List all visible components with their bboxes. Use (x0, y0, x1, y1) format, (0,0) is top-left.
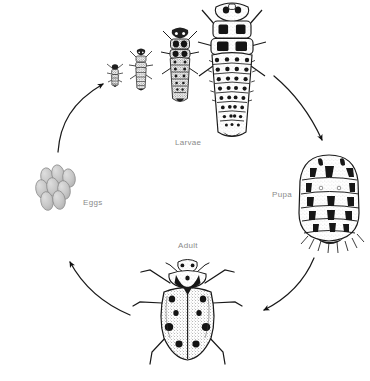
larva-instar-3 (161, 28, 199, 102)
stage-label-larvae: Larvae (175, 138, 201, 147)
stage-label-adult: Adult (178, 241, 198, 250)
arrow-pupa-to-adult (264, 258, 314, 310)
arrow-adult-to-eggs (70, 262, 130, 315)
adult-ladybug (133, 260, 242, 365)
life-cycle-illustration (0, 0, 370, 381)
stage-label-pupa: Pupa (272, 190, 292, 199)
eggs-cluster (34, 164, 76, 211)
pupa (299, 155, 364, 253)
stage-label-eggs: Eggs (83, 198, 102, 207)
larva-instar-1 (107, 64, 123, 87)
larva-instar-4 (198, 3, 266, 137)
larva-instar-2 (129, 48, 153, 90)
arrow-eggs-to-larvae (58, 84, 103, 152)
ladybug-life-cycle-diagram: Larvae Eggs Pupa Adult (0, 0, 370, 381)
elytra-spots (165, 295, 210, 347)
arrow-larvae-to-pupa (274, 76, 322, 140)
